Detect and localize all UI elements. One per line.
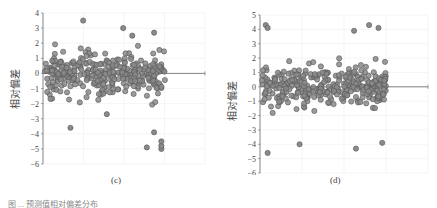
grid-lines xyxy=(43,13,205,164)
panel-c-label: (c) xyxy=(111,175,121,185)
scatter-plot-d: 543210−1−2−3−4−5−6相对偏差 xyxy=(218,0,437,175)
y-tick-label: 1 xyxy=(252,68,256,77)
panel-c: 43210−1−2−3−4−5−6相对偏差 (c) xyxy=(0,0,218,190)
y-tick-label: −2 xyxy=(247,112,256,121)
y-tick-label: 5 xyxy=(252,11,256,20)
data-points xyxy=(259,22,388,155)
y-tick-label: −4 xyxy=(30,130,39,139)
y-tick-label: 0 xyxy=(252,83,256,92)
y-tick-label: −3 xyxy=(30,115,39,124)
panel-d-label: (d) xyxy=(330,175,341,185)
y-tick-label: −1 xyxy=(247,97,256,106)
y-tick-label: 0 xyxy=(35,69,39,78)
y-tick-label: 1 xyxy=(35,54,39,63)
y-tick-label: −1 xyxy=(30,85,39,94)
y-tick-label: −6 xyxy=(247,169,256,175)
y-tick-label: 2 xyxy=(252,54,256,63)
figure-caption: 图 ... 预测值相对偏差分布 xyxy=(8,198,98,208)
y-tick-label: 2 xyxy=(35,39,39,48)
y-axis-label: 相对偏差 xyxy=(9,69,21,109)
data-points xyxy=(42,18,167,152)
y-tick-label: 4 xyxy=(252,25,256,34)
y-tick-label: −6 xyxy=(30,160,39,169)
y-axis-label: 相对偏差 xyxy=(226,81,238,121)
scatter-plot-c: 43210−1−2−3−4−5−6相对偏差 xyxy=(0,0,218,175)
y-tick-label: 3 xyxy=(35,24,39,33)
y-tick-label: −2 xyxy=(30,100,39,109)
y-tick-label: 4 xyxy=(35,9,39,18)
y-tick-label: 3 xyxy=(252,40,256,49)
y-tick-label: −5 xyxy=(30,145,39,154)
y-tick-label: −4 xyxy=(247,140,256,149)
y-tick-label: −5 xyxy=(247,155,256,164)
y-tick-label: −3 xyxy=(247,126,256,135)
panel-d: 543210−1−2−3−4−5−6相对偏差 (d) xyxy=(218,0,437,190)
